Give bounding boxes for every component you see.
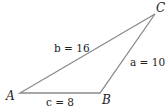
vertex-label-a: A [5,89,15,103]
triangle-diagram: A B C b = 16 a = 10 c = 8 [0,0,167,109]
side-label-a: a = 10 [130,56,165,68]
side-label-b: b = 16 [54,42,90,54]
vertex-label-b: B [101,93,111,107]
side-label-c: c = 8 [46,96,74,108]
vertex-label-c: C [156,1,165,15]
